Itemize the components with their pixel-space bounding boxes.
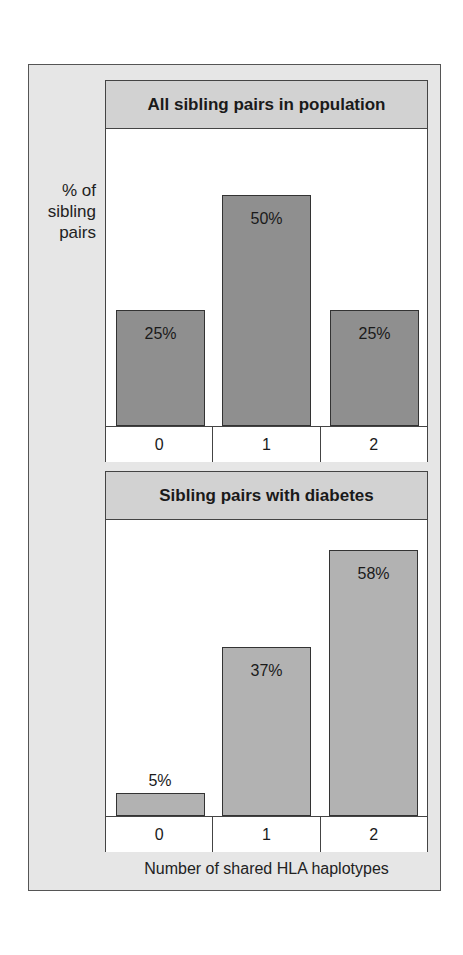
bar-0-shared: [116, 793, 205, 816]
y-axis-label-line: sibling: [40, 201, 96, 222]
bar-2-shared: 25%: [330, 310, 419, 426]
bar-2-shared: 58%: [329, 550, 418, 816]
category-0: 0: [106, 817, 213, 852]
bar-value-label: 58%: [357, 565, 389, 582]
panel-title: Sibling pairs with diabetes: [106, 472, 427, 520]
category-1: 1: [213, 817, 320, 852]
bar-1-shared: 50%: [222, 195, 311, 426]
bar-value-label: 50%: [250, 210, 282, 227]
y-axis-label: % of sibling pairs: [40, 180, 96, 243]
category-2: 2: [321, 427, 427, 462]
y-axis-label-line: pairs: [40, 222, 96, 243]
plot-area: 25% 50% 25%: [106, 129, 427, 426]
bar-value-label: 25%: [358, 325, 390, 342]
bar-value-label: 37%: [250, 662, 282, 679]
panel-title: All sibling pairs in population: [106, 81, 427, 129]
category-1: 1: [213, 427, 320, 462]
category-2: 2: [321, 817, 427, 852]
bar-value-label: 5%: [116, 772, 204, 790]
bar-0-shared: 25%: [116, 310, 205, 426]
panel-all-sibling-pairs: All sibling pairs in population 25% 50% …: [105, 80, 428, 462]
bar-value-label: 25%: [144, 325, 176, 342]
category-0: 0: [106, 427, 213, 462]
x-axis-label: Number of shared HLA haplotypes: [105, 860, 428, 878]
bar-1-shared: 37%: [222, 647, 311, 816]
y-axis-label-line: % of: [40, 180, 96, 201]
category-row: 0 1 2: [106, 816, 427, 852]
panel-sibling-pairs-diabetes: Sibling pairs with diabetes 5% 37% 58% 0…: [105, 471, 428, 852]
plot-area: 5% 37% 58%: [106, 520, 427, 816]
category-row: 0 1 2: [106, 426, 427, 462]
